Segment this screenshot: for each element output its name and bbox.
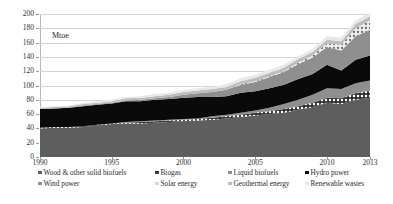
y-axis-tick-mark bbox=[36, 71, 39, 72]
legend-item[interactable]: Geothermal energy bbox=[228, 179, 290, 188]
legend-label: Hydro power bbox=[311, 168, 350, 177]
legend-swatch-icon bbox=[155, 182, 159, 186]
legend-item[interactable]: Biogas bbox=[155, 168, 181, 177]
y-axis-tick-mark bbox=[36, 114, 39, 115]
y-axis-tick-mark bbox=[36, 28, 39, 29]
x-axis-tick-mark bbox=[327, 157, 328, 160]
plot-area bbox=[40, 14, 370, 157]
y-axis-tick-label: 200 bbox=[0, 10, 34, 18]
y-axis-tick-mark bbox=[36, 14, 39, 15]
legend-swatch-icon bbox=[228, 182, 232, 186]
legend-item[interactable]: Wood & other solid biofuels bbox=[38, 168, 126, 177]
stacked-area-series bbox=[40, 14, 370, 157]
legend-item[interactable]: Hydro power bbox=[305, 168, 349, 177]
legend-label: Liquid biofuels bbox=[234, 168, 279, 177]
legend-item[interactable]: Wind power bbox=[38, 179, 79, 188]
y-axis-tick-label: 160 bbox=[0, 39, 34, 47]
legend-label: Solar energy bbox=[161, 179, 198, 188]
legend-swatch-icon bbox=[155, 171, 159, 175]
legend-item[interactable]: Solar energy bbox=[155, 179, 197, 188]
legend-label: Biogas bbox=[161, 168, 181, 177]
y-axis-tick-mark bbox=[36, 86, 39, 87]
x-axis-tick-mark bbox=[183, 157, 184, 160]
unit-label: Mtoe bbox=[52, 31, 69, 40]
legend-swatch-icon bbox=[228, 171, 232, 175]
y-axis-tick-label: 20 bbox=[0, 139, 34, 147]
y-axis-tick-mark bbox=[36, 57, 39, 58]
y-axis-tick-label: 120 bbox=[0, 67, 34, 75]
y-axis-tick-label: 80 bbox=[0, 96, 34, 104]
y-axis-tick-mark bbox=[36, 43, 39, 44]
legend-swatch-icon bbox=[305, 182, 309, 186]
x-axis-tick-mark bbox=[40, 157, 41, 160]
y-axis-tick-label: 60 bbox=[0, 110, 34, 118]
x-axis-tick-mark bbox=[370, 157, 371, 160]
y-axis-tick-label: 100 bbox=[0, 82, 34, 90]
legend-swatch-icon bbox=[305, 171, 309, 175]
y-axis-tick-mark bbox=[36, 143, 39, 144]
legend-item[interactable]: Liquid biofuels bbox=[228, 168, 278, 177]
y-axis-tick-mark bbox=[36, 128, 39, 129]
legend-swatch-icon bbox=[38, 171, 42, 175]
y-axis-tick-label: 180 bbox=[0, 24, 34, 32]
legend-item[interactable]: Renewable wastes bbox=[305, 179, 364, 188]
legend-label: Wind power bbox=[44, 179, 80, 188]
legend-label: Wood & other solid biofuels bbox=[44, 168, 127, 177]
stacked-area-chart: 200180160140120100806040200 199019952000… bbox=[0, 0, 393, 204]
y-axis-tick-mark bbox=[36, 100, 39, 101]
x-axis-tick-mark bbox=[112, 157, 113, 160]
x-axis-tick-mark bbox=[255, 157, 256, 160]
y-axis-tick-label: 40 bbox=[0, 124, 34, 132]
chart-legend: Wood & other solid biofuelsBiogasLiquid … bbox=[0, 168, 393, 194]
y-axis-tick-label: 0 bbox=[0, 153, 34, 161]
legend-swatch-icon bbox=[38, 182, 42, 186]
y-axis-tick-label: 140 bbox=[0, 53, 34, 61]
legend-label: Geothermal energy bbox=[234, 179, 290, 188]
legend-label: Renewable wastes bbox=[311, 179, 365, 188]
